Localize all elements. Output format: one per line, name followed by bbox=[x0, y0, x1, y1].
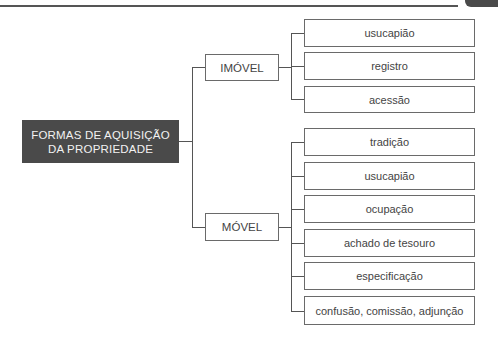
leaf-label: registro bbox=[371, 60, 408, 72]
branch-node-imovel: IMÓVEL bbox=[205, 54, 279, 81]
connector bbox=[291, 209, 304, 210]
leaf-node: tradição bbox=[304, 128, 475, 156]
leaf-node: acessão bbox=[304, 86, 475, 113]
connector bbox=[291, 142, 304, 143]
branch-label: IMÓVEL bbox=[220, 62, 263, 74]
root-label-line2: DA PROPRIEDADE bbox=[48, 142, 153, 156]
page-corner-tab bbox=[465, 0, 498, 7]
leaf-label: especificação bbox=[356, 270, 423, 282]
leaf-label: usucapião bbox=[364, 27, 414, 39]
leaf-node: usucapião bbox=[304, 19, 475, 47]
leaf-node: ocupação bbox=[304, 195, 475, 223]
branch-node-movel: MÓVEL bbox=[205, 213, 279, 241]
connector bbox=[291, 33, 304, 34]
leaf-node: achado de tesouro bbox=[304, 229, 475, 257]
connector bbox=[291, 276, 304, 277]
leaf-node: usucapião bbox=[304, 162, 475, 190]
connector bbox=[179, 141, 192, 142]
page-top-rule bbox=[0, 5, 458, 7]
connector bbox=[291, 66, 304, 67]
connector bbox=[279, 67, 291, 68]
leaf-label: tradição bbox=[370, 136, 409, 148]
root-node: FORMAS DE AQUISIÇÃO DA PROPRIEDADE bbox=[22, 120, 179, 163]
leaf-node: especificação bbox=[304, 262, 475, 290]
connector bbox=[291, 243, 304, 244]
leaf-label: confusão, comissão, adjunção bbox=[316, 305, 464, 317]
connector bbox=[192, 67, 205, 68]
leaf-label: acessão bbox=[369, 94, 410, 106]
connector bbox=[291, 176, 304, 177]
branch-label: MÓVEL bbox=[222, 221, 262, 233]
connector bbox=[192, 67, 193, 227]
leaf-node: registro bbox=[304, 52, 475, 80]
leaf-label: ocupação bbox=[366, 203, 414, 215]
connector bbox=[291, 142, 292, 312]
connector bbox=[192, 227, 205, 228]
connector bbox=[291, 99, 304, 100]
leaf-node: confusão, comissão, adjunção bbox=[304, 296, 475, 325]
leaf-label: usucapião bbox=[364, 170, 414, 182]
connector bbox=[279, 227, 291, 228]
root-label-line1: FORMAS DE AQUISIÇÃO bbox=[31, 128, 170, 142]
leaf-label: achado de tesouro bbox=[344, 237, 435, 249]
connector bbox=[291, 311, 304, 312]
